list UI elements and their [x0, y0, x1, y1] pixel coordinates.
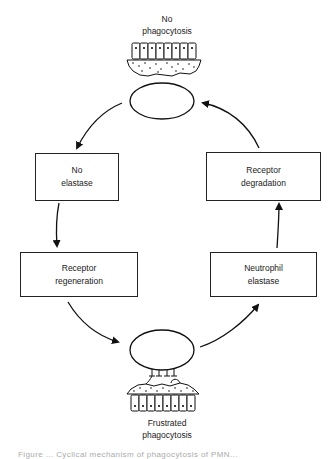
box-no-elastase-line1: No — [72, 164, 83, 177]
top-state-line1: No — [117, 13, 217, 25]
arrow-to-receptor-regeneration — [56, 203, 59, 246]
box-neutrophil-elastase-line2: elastase — [248, 275, 280, 288]
bottom-epithelium-icon — [127, 383, 199, 411]
box-no-elastase-line2: elastase — [61, 177, 93, 190]
bottom-state-line2: phagocytosis — [117, 429, 217, 441]
arrow-to-no-phagocytosis — [203, 103, 259, 148]
arrow-to-no-elastase — [77, 103, 122, 148]
box-receptor-degradation: Receptor degradation — [206, 152, 321, 201]
top-state-line2: phagocytosis — [117, 25, 217, 37]
box-no-elastase: No elastase — [35, 153, 119, 201]
top-neutrophil-icon — [130, 83, 194, 119]
bottom-neutrophil-icon — [130, 330, 194, 370]
arrow-to-neutrophil-elastase — [200, 305, 258, 347]
box-receptor-regeneration-line1: Receptor — [62, 262, 97, 275]
box-receptor-degradation-line1: Receptor — [246, 164, 281, 177]
box-receptor-regeneration-line2: regeneration — [55, 275, 103, 288]
box-neutrophil-elastase: Neutrophil elastase — [210, 252, 317, 297]
box-neutrophil-elastase-line1: Neutrophil — [244, 262, 283, 275]
bottom-state-label: Frustrated phagocytosis — [117, 417, 217, 441]
arrow-to-frustrated — [68, 302, 118, 342]
figure-caption: Figure ... Cyclical mechanism of phagocy… — [18, 450, 238, 459]
bottom-state-line1: Frustrated — [117, 417, 217, 429]
box-receptor-regeneration: Receptor regeneration — [20, 252, 138, 297]
receptor-stalks-icon — [146, 369, 180, 384]
top-epithelium-icon — [127, 43, 201, 76]
box-receptor-degradation-line2: degradation — [241, 177, 286, 190]
top-state-label: No phagocytosis — [117, 13, 217, 37]
arrow-to-receptor-degradation — [277, 204, 279, 248]
